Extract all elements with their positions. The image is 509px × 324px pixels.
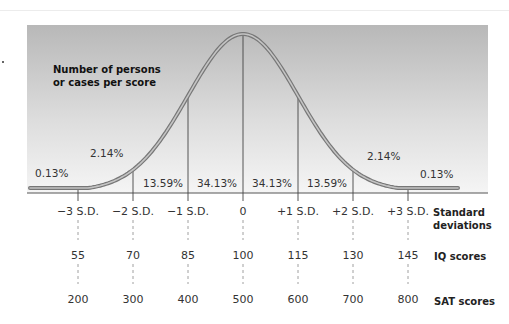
sat-tick-label: 500: [213, 293, 273, 306]
pct-label-minus3-minus2: 2.14%: [90, 147, 123, 159]
y-axis-label-line1: Number of persons: [53, 63, 161, 76]
iq-tick-label: 100: [213, 249, 273, 262]
pct-label-plus2-plus3: 2.14%: [367, 150, 400, 162]
sat-tick-label: 600: [268, 293, 328, 306]
sd-tick-label: 0: [213, 205, 273, 218]
iq-tick-label: 145: [378, 249, 438, 262]
pct-label-zero-plus1: 34.13%: [252, 177, 292, 189]
iq-tick-label: 115: [268, 249, 328, 262]
pct-label-minus2-minus1: 13.59%: [143, 177, 183, 189]
sd-tick-label: −2 S.D.: [103, 205, 163, 218]
y-axis-label: Number of persons or cases per score: [53, 63, 161, 89]
sd-tick-label: −1 S.D.: [158, 205, 218, 218]
sat-tick-label: 300: [103, 293, 163, 306]
sd-row-title-line1: Standard: [433, 206, 492, 219]
iq-tick-label: 130: [323, 249, 383, 262]
pct-label-minus1-zero: 34.13%: [197, 177, 237, 189]
sd-tick-label: −3 S.D.: [48, 205, 108, 218]
normal-distribution-chart: [0, 0, 509, 324]
chart-panel: [27, 25, 488, 193]
sd-tick-label: +1 S.D.: [268, 205, 328, 218]
iq-tick-label: 85: [158, 249, 218, 262]
sd-row-title-line2: deviations: [433, 219, 492, 232]
iq-row-title: IQ scores: [434, 250, 486, 263]
iq-tick-label: 55: [48, 249, 108, 262]
sd-row-title: Standard deviations: [433, 206, 492, 232]
pct-label-plus1-plus2: 13.59%: [307, 177, 347, 189]
pct-label-below-minus3: 0.13%: [35, 167, 68, 179]
sat-tick-label: 700: [323, 293, 383, 306]
sd-tick-label: +2 S.D.: [323, 205, 383, 218]
iq-tick-label: 70: [103, 249, 163, 262]
y-axis-label-line2: or cases per score: [53, 76, 161, 89]
sat-row-title: SAT scores: [434, 295, 495, 308]
sd-tick-label: +3 S.D.: [378, 205, 438, 218]
pct-label-above-plus3: 0.13%: [420, 168, 453, 180]
sat-tick-label: 200: [48, 293, 108, 306]
sat-tick-label: 400: [158, 293, 218, 306]
sat-tick-label: 800: [378, 293, 438, 306]
